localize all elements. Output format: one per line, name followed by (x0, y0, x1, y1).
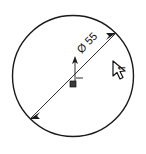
cad-drawing-canvas[interactable]: Ø 55 ↖ (0, 0, 146, 154)
center-selection-marker[interactable] (70, 81, 76, 87)
dimension-arrowhead-end (106, 33, 116, 40)
